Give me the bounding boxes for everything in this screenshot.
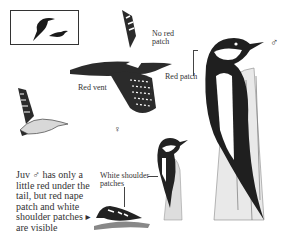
caption-line: Juv ♂ has only a [16,170,94,181]
perched-male-woodpecker-illustration [194,30,284,220]
white-shoulder-leader-line [124,187,125,207]
silhouette-box [10,10,79,45]
red-patch-leader-tick [193,50,198,51]
male-symbol: ♂ [270,36,278,48]
flying-woodpecker-illustration [70,8,180,118]
no-red-patch-label: No red patch [152,30,174,46]
red-vent-label: Red vent [78,84,107,92]
red-patch-leader-line [193,50,194,76]
juvenile-caption: Juv ♂ has only a little red under the ta… [16,170,94,233]
flying-juvenile-woodpecker-illustration [12,86,72,146]
caption-line: are visible [16,223,94,234]
female-symbol: ♀ [114,124,121,134]
flying-bird-silhouette-icon [49,28,69,38]
perched-bird-silhouette-icon [21,13,51,43]
perched-small-woodpecker-illustration [150,130,190,210]
caption-line: shoulder patches ▸ [16,212,94,223]
white-shoulder-patches-label: White shoulder patches [100,172,149,188]
white-shoulder-leader-line-right [148,176,158,177]
caption-line: tail, but red nape [16,191,94,202]
juvenile-woodpecker-ground-illustration [92,200,152,230]
